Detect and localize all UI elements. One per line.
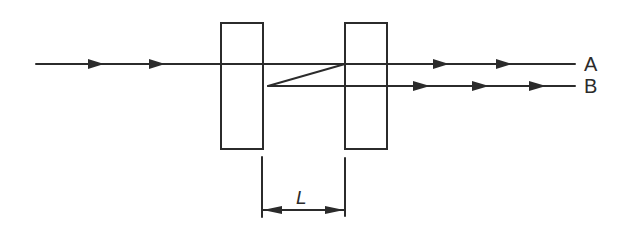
arrow-icon [413, 81, 430, 91]
output-label-a: A [584, 54, 597, 74]
arrow-icon [433, 59, 449, 69]
dimension-label: L [296, 188, 307, 207]
output-label-b: B [584, 76, 597, 96]
dimension-arrow-left-icon [263, 206, 282, 214]
plate-1 [221, 23, 263, 149]
arrow-icon [149, 59, 165, 69]
arrow-icon [88, 59, 104, 69]
dimension-arrow-right-icon [325, 206, 344, 214]
reflected-beam-diagonal [268, 64, 345, 86]
arrow-icon [472, 81, 489, 91]
arrow-icon [529, 81, 546, 91]
arrow-icon [496, 59, 512, 69]
optical-diagram [0, 0, 629, 230]
